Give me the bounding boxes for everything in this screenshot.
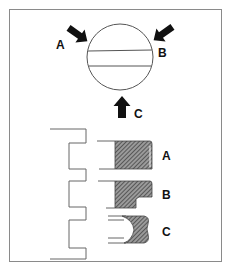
arrow-b-icon [149,20,177,46]
arrow-a-icon [64,21,92,47]
diagram-svg: A B C A B C [0,0,228,266]
label-b: B [158,46,167,60]
label-c: C [134,107,143,121]
diagram-figure: A B C A B C [0,0,228,266]
circle-cross-section [87,24,153,90]
profile-b [98,181,152,208]
tool-profile-outline [50,129,86,259]
label-a: A [56,38,65,52]
profile-a [97,141,152,169]
profile-label-a: A [162,149,171,163]
arrow-c-icon [114,96,131,118]
profile-label-b: B [162,188,171,202]
profile-c [108,216,149,243]
profile-label-c: C [162,225,171,239]
